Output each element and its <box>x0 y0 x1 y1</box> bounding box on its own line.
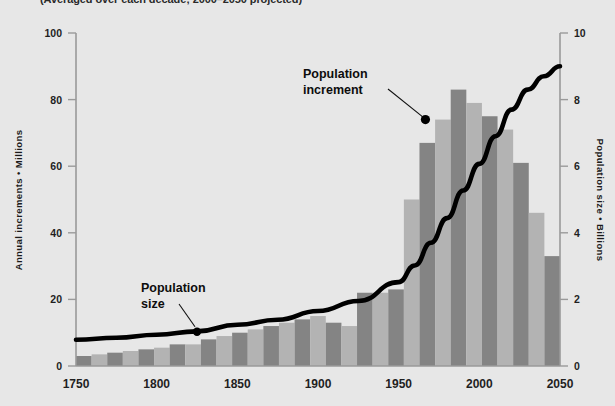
bar <box>341 326 357 366</box>
bar <box>138 349 154 366</box>
x-tick-label: 1900 <box>305 377 332 391</box>
annotation-size-line1: Population <box>141 281 206 295</box>
left-tick-group: 020406080100 <box>44 27 76 372</box>
bar <box>295 319 311 366</box>
right-tick-label: 2 <box>574 293 580 305</box>
annotation-increment-dot <box>421 115 430 124</box>
bar <box>544 256 560 366</box>
right-tick-label: 0 <box>574 360 580 372</box>
bar <box>529 213 545 366</box>
x-tick-label: 1950 <box>385 377 412 391</box>
left-tick-label: 60 <box>50 160 62 172</box>
bar <box>201 339 217 366</box>
bar <box>107 353 123 366</box>
x-tick-label: 1800 <box>143 377 170 391</box>
bar <box>248 329 264 366</box>
x-tick-label: 2050 <box>547 377 574 391</box>
left-axis-title: Annual increments • Millions <box>13 130 24 271</box>
right-tick-label: 6 <box>574 160 580 172</box>
annotation-increment-leader <box>388 89 422 117</box>
bar <box>451 90 467 366</box>
bar <box>217 336 233 366</box>
bar <box>232 333 248 366</box>
annotation-population-increment: Population increment <box>303 67 430 124</box>
bar <box>388 289 404 366</box>
x-tick-group: 1750180018501900195020002050 <box>63 377 574 391</box>
chart-root: (Averaged over each decade; 2000–2050 pr… <box>0 0 615 406</box>
bar <box>357 293 373 366</box>
right-tick-group: 0246810 <box>560 27 586 372</box>
right-axis-title: Population size • Billions <box>595 139 606 262</box>
right-tick-label: 8 <box>574 94 580 106</box>
right-tick-label: 4 <box>574 227 580 239</box>
bar <box>498 130 514 366</box>
annotation-size-dot <box>193 328 201 336</box>
bar <box>373 293 389 366</box>
annotation-increment-line1: Population <box>303 67 368 81</box>
bar <box>154 348 170 366</box>
left-tick-label: 80 <box>50 94 62 106</box>
chart-canvas: 020406080100 0246810 1750180018501900195… <box>0 0 615 406</box>
left-tick-label: 100 <box>44 27 62 39</box>
bar <box>435 120 451 366</box>
bar <box>185 344 201 366</box>
bar <box>310 316 326 366</box>
bar <box>123 351 139 366</box>
annotation-increment-line2: increment <box>303 83 364 97</box>
bar <box>513 163 529 366</box>
bar <box>404 200 420 367</box>
bar <box>466 103 482 366</box>
x-tick-label: 1850 <box>224 377 251 391</box>
left-tick-label: 0 <box>56 360 62 372</box>
annotation-size-line2: size <box>141 297 165 311</box>
annotation-size-leader <box>179 304 195 327</box>
bar <box>76 356 92 366</box>
right-tick-label: 10 <box>574 27 586 39</box>
bar <box>263 326 279 366</box>
annotation-population-size: Population size <box>141 281 206 336</box>
left-tick-label: 40 <box>50 227 62 239</box>
x-tick-label: 2000 <box>466 377 493 391</box>
x-tick-label: 1750 <box>63 377 90 391</box>
bar <box>326 323 342 366</box>
bar <box>92 354 108 366</box>
bar <box>279 323 295 366</box>
left-tick-label: 20 <box>50 293 62 305</box>
bar <box>170 344 186 366</box>
bar-series <box>76 90 560 366</box>
